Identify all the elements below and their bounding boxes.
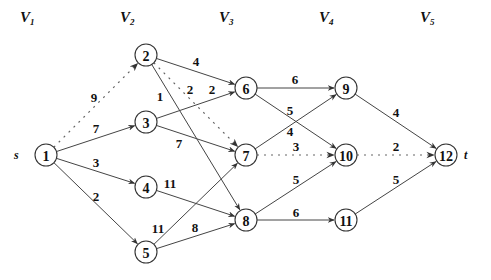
source-label: s bbox=[13, 148, 19, 162]
node-label: 12 bbox=[439, 149, 453, 164]
edge-weight-5-7: 11 bbox=[152, 221, 164, 236]
stage-subscript: 5 bbox=[430, 17, 435, 27]
node-label: 4 bbox=[143, 181, 150, 196]
edge-weight-6-10: 5 bbox=[287, 103, 294, 118]
edge-weight-8-10: 5 bbox=[293, 172, 300, 187]
network-diagram: V1V2V3V4V5 97324212711118654356425 12345… bbox=[0, 0, 491, 280]
edge-weight-1-3: 7 bbox=[93, 121, 100, 136]
stage-label-v2: V2 bbox=[120, 9, 135, 27]
node-label: 9 bbox=[343, 82, 350, 97]
stage-label-v5: V5 bbox=[420, 9, 435, 27]
edge-3-to-6 bbox=[156, 92, 234, 119]
edge-weight-6-9: 6 bbox=[292, 72, 299, 87]
stage-label-v4: V4 bbox=[319, 9, 334, 27]
edge-3-to-7 bbox=[156, 125, 234, 151]
node-4: 4 bbox=[135, 176, 157, 198]
node-8: 8 bbox=[235, 209, 257, 231]
node-label: 11 bbox=[339, 214, 352, 229]
edge-weight-8-11: 6 bbox=[293, 205, 300, 220]
node-1: 1 bbox=[35, 144, 57, 166]
node-label: 3 bbox=[143, 116, 150, 131]
node-label: 5 bbox=[143, 246, 150, 261]
edge-weight-2-8: 1 bbox=[157, 89, 164, 104]
node-label: 1 bbox=[43, 149, 50, 164]
node-label: 8 bbox=[243, 214, 250, 229]
edge-weight-3-6: 2 bbox=[209, 82, 216, 97]
edge-weight-2-6: 4 bbox=[193, 54, 200, 69]
stage-headers: V1V2V3V4V5 bbox=[20, 9, 435, 27]
edge-weight-7-10: 3 bbox=[293, 139, 300, 154]
stage-subscript: 3 bbox=[228, 17, 234, 27]
node-5: 5 bbox=[135, 241, 157, 263]
node-11: 11 bbox=[335, 209, 357, 231]
node-label: 2 bbox=[143, 49, 150, 64]
edge-weight-1-4: 3 bbox=[93, 155, 100, 170]
edge-weight-5-8: 8 bbox=[192, 220, 199, 235]
node-6: 6 bbox=[235, 77, 257, 99]
edge-weight-3-7: 7 bbox=[176, 136, 183, 151]
stage-subscript: 1 bbox=[30, 17, 35, 27]
stage-subscript: 4 bbox=[328, 17, 334, 27]
edge-weight-1-5: 2 bbox=[93, 189, 100, 204]
stage-label-v3: V3 bbox=[219, 9, 234, 27]
node-12: 12 bbox=[435, 144, 457, 166]
edge-weight-11-12: 5 bbox=[393, 172, 400, 187]
edge-weight-7-9: 4 bbox=[287, 124, 294, 139]
edge-weight-1-2: 9 bbox=[91, 90, 98, 105]
node-7: 7 bbox=[235, 144, 257, 166]
sink-label: t bbox=[464, 148, 468, 162]
node-2: 2 bbox=[135, 44, 157, 66]
node-10: 10 bbox=[335, 144, 357, 166]
node-label: 7 bbox=[243, 149, 250, 164]
node-3: 3 bbox=[135, 111, 157, 133]
edge-weight-9-12: 4 bbox=[393, 105, 400, 120]
nodes: 123456789101112 bbox=[35, 44, 457, 263]
edge-weight-2-7: 2 bbox=[187, 82, 194, 97]
edge-weight-10-12: 2 bbox=[393, 139, 400, 154]
edge-weight-4-8: 11 bbox=[164, 176, 176, 191]
stage-subscript: 2 bbox=[129, 17, 135, 27]
edge-11-to-12 bbox=[355, 162, 436, 214]
stage-label-v1: V1 bbox=[20, 9, 35, 27]
node-label: 6 bbox=[243, 82, 250, 97]
node-9: 9 bbox=[335, 77, 357, 99]
node-label: 10 bbox=[339, 149, 353, 164]
